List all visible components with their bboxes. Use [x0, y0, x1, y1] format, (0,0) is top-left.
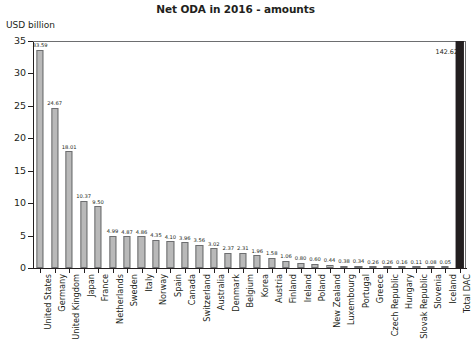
x-axis-category-label: Czech Republic: [391, 274, 399, 336]
bar-rect[interactable]: [152, 240, 159, 268]
bar-rect[interactable]: [297, 263, 304, 268]
bar-item[interactable]: 1.96: [250, 41, 264, 268]
x-axis-category-label: Netherlands: [116, 274, 124, 324]
chart-container: Net ODA in 2016 - amounts USD billion 05…: [0, 0, 471, 349]
x-axis-category-label: Denmark: [232, 274, 240, 312]
y-axis-tick-label: 25: [2, 101, 26, 111]
bar-item[interactable]: 3.96: [178, 41, 192, 268]
bar-item[interactable]: 1.58: [264, 41, 278, 268]
x-axis-category-label: Slovak Republic: [420, 274, 428, 339]
bar-rect[interactable]: [181, 242, 188, 268]
bar-value-label: 3.56: [194, 238, 206, 243]
x-axis-tick-mark: [387, 269, 388, 273]
x-axis-tick-mark: [40, 269, 41, 273]
bar-item[interactable]: 0.60: [308, 41, 322, 268]
x-axis-tick-mark: [170, 269, 171, 273]
bar-item[interactable]: 4.87: [120, 41, 134, 268]
bar-value-label: 0.05: [440, 260, 452, 265]
bar-rect[interactable]: [311, 264, 318, 268]
x-axis-tick-mark: [359, 269, 360, 273]
x-axis-tick-mark: [445, 269, 446, 273]
x-axis-category-label: Spain: [174, 274, 182, 297]
x-axis-category-label: Canada: [188, 274, 196, 305]
bar-item[interactable]: 0.44: [322, 41, 336, 268]
bar-item[interactable]: 2.31: [236, 41, 250, 268]
bar-item[interactable]: 4.10: [163, 41, 177, 268]
x-axis-tick-mark: [84, 269, 85, 273]
bar-rect[interactable]: [196, 245, 203, 268]
bar-item[interactable]: 1.06: [279, 41, 293, 268]
bar-item[interactable]: 2.37: [221, 41, 235, 268]
y-axis-tick-mark: [28, 106, 33, 107]
bar-rect[interactable]: [398, 266, 405, 268]
bar-rect[interactable]: [355, 266, 362, 268]
x-axis-category-label: Total DAC: [463, 274, 471, 313]
bar-item[interactable]: 0.26: [366, 41, 380, 268]
x-axis-tick-mark: [373, 269, 374, 273]
bar-rect[interactable]: [123, 236, 130, 268]
bar-item[interactable]: 4.86: [134, 41, 148, 268]
bar-item[interactable]: 142.62: [453, 41, 467, 268]
bar-rect[interactable]: [283, 261, 290, 268]
bar-value-label: 9.50: [92, 200, 104, 205]
bar-rect[interactable]: [384, 266, 391, 268]
bar-rect[interactable]: [340, 266, 347, 268]
bar-rect[interactable]: [66, 151, 73, 268]
bar-item[interactable]: 0.80: [293, 41, 307, 268]
bar-rect[interactable]: [326, 265, 333, 268]
bar-item[interactable]: 0.26: [380, 41, 394, 268]
x-axis-category-label: United Kingdom: [72, 274, 80, 340]
x-axis-tick-mark: [344, 269, 345, 273]
bar-rect[interactable]: [225, 253, 232, 268]
bar-value-label: 18.01: [62, 145, 77, 150]
x-axis-tick-mark: [127, 269, 128, 273]
bar-rect[interactable]: [268, 258, 275, 268]
bar-item[interactable]: 33.59: [33, 41, 47, 268]
y-axis-tick-mark: [28, 268, 33, 269]
bar-value-label: 33.59: [33, 43, 48, 48]
bar-item[interactable]: 18.01: [62, 41, 76, 268]
bar-total-dac[interactable]: [456, 41, 465, 268]
bar-rect[interactable]: [369, 266, 376, 268]
bar-item[interactable]: 0.05: [438, 41, 452, 268]
bar-item[interactable]: 4.35: [149, 41, 163, 268]
bar-item[interactable]: 0.11: [409, 41, 423, 268]
bar-rect[interactable]: [427, 266, 434, 268]
bar-rect[interactable]: [239, 253, 246, 268]
bar-rect[interactable]: [442, 266, 449, 268]
bar-rect[interactable]: [51, 108, 58, 268]
x-axis-tick-mark: [156, 269, 157, 273]
x-axis-tick-mark: [228, 269, 229, 273]
bar-rect[interactable]: [167, 241, 174, 268]
x-axis-tick-mark: [416, 269, 417, 273]
y-axis-tick-mark: [28, 138, 33, 139]
bar-item[interactable]: 0.34: [351, 41, 365, 268]
x-axis-category-label: Korea: [261, 274, 269, 297]
x-axis-category-label: Portugal: [362, 274, 370, 308]
bar-item[interactable]: 9.50: [91, 41, 105, 268]
bar-item[interactable]: 4.99: [105, 41, 119, 268]
bar-item[interactable]: 3.02: [207, 41, 221, 268]
bar-value-label: 0.26: [382, 260, 394, 265]
bar-item[interactable]: 0.08: [424, 41, 438, 268]
bar-item[interactable]: 0.16: [395, 41, 409, 268]
bar-value-label: 4.35: [150, 233, 162, 238]
bar-item[interactable]: 24.67: [47, 41, 61, 268]
bar-rect[interactable]: [37, 50, 44, 268]
bar-rect[interactable]: [138, 236, 145, 268]
bar-rect[interactable]: [94, 206, 101, 268]
bar-item[interactable]: 10.37: [76, 41, 90, 268]
x-axis-tick-mark: [214, 269, 215, 273]
bar-item[interactable]: 0.38: [337, 41, 351, 268]
chart-title: Net ODA in 2016 - amounts: [0, 3, 471, 15]
x-axis-category-label: Norway: [159, 274, 167, 305]
bar-rect[interactable]: [413, 266, 420, 268]
x-axis-category-label: Luxembourg: [347, 274, 355, 325]
bar-rect[interactable]: [109, 236, 116, 268]
bar-item[interactable]: 3.56: [192, 41, 206, 268]
bar-rect[interactable]: [80, 201, 87, 268]
bar-value-label: 4.87: [121, 230, 133, 235]
bar-rect[interactable]: [254, 255, 261, 268]
bar-rect[interactable]: [210, 248, 217, 268]
x-axis-category-label: France: [101, 274, 109, 301]
